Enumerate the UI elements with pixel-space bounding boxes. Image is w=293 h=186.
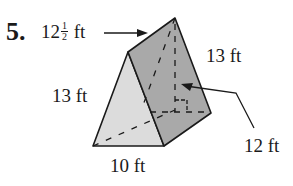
right-edge-label: 13 ft [206, 46, 241, 65]
length-label: 1212 ft [41, 22, 85, 44]
left-edge-label: 13 ft [52, 86, 87, 105]
problem-number: 5. [6, 19, 26, 45]
length-whole: 12 [41, 21, 60, 42]
problem-diagram: 5. 1212 ft 13 ft 13 ft 10 ft 12 ft [0, 0, 293, 186]
length-unit: ft [74, 21, 86, 42]
base-label: 10 ft [110, 156, 145, 175]
length-arrow-head [137, 29, 148, 37]
length-fraction: 12 [61, 21, 68, 42]
height-label: 12 ft [244, 136, 279, 155]
